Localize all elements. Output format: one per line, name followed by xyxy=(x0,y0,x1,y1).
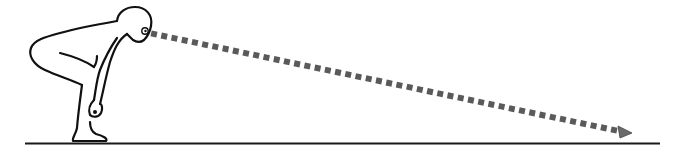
gaze-dot xyxy=(212,43,219,50)
gaze-dot xyxy=(283,58,290,65)
gaze-dot xyxy=(345,71,352,78)
gaze-dot xyxy=(232,48,239,55)
gaze-dot xyxy=(447,92,454,99)
gaze-dot xyxy=(222,45,229,52)
gaze-dot xyxy=(396,82,403,89)
gaze-dot xyxy=(263,54,270,61)
gaze-dot xyxy=(457,94,464,101)
back-outline xyxy=(30,21,117,85)
gaze-dotted-line xyxy=(150,30,617,133)
arrow-head-icon xyxy=(618,126,632,138)
gaze-dot xyxy=(590,122,597,129)
gaze-dot xyxy=(181,37,188,44)
gaze-dot xyxy=(498,103,505,110)
gaze-dot xyxy=(202,41,209,48)
gaze-dot xyxy=(518,107,525,114)
gaze-dot xyxy=(334,69,341,76)
inner-arm-outline xyxy=(94,38,117,100)
gaze-dot xyxy=(580,120,587,127)
gaze-dot xyxy=(171,35,178,42)
gaze-dot xyxy=(191,39,198,46)
illustration-svg xyxy=(0,0,674,156)
gaze-dot xyxy=(304,62,311,69)
gaze-dot xyxy=(375,77,382,84)
eye-icon xyxy=(142,28,148,34)
gaze-dot xyxy=(529,109,536,116)
gaze-dot xyxy=(253,52,260,59)
gaze-dot xyxy=(406,84,413,91)
gaze-dot xyxy=(294,60,301,67)
gaze-dot xyxy=(365,75,372,82)
gaze-dot xyxy=(610,126,617,133)
gaze-dot xyxy=(600,124,607,131)
gaze-dot xyxy=(161,33,168,40)
gaze-dot xyxy=(559,116,566,123)
thigh-line xyxy=(60,53,97,67)
gaze-dot xyxy=(467,97,474,104)
gaze-dot xyxy=(478,99,485,106)
gaze-dot xyxy=(324,67,331,74)
gaze-dot xyxy=(386,80,393,87)
gaze-dot xyxy=(355,73,362,80)
bent-over-figure xyxy=(30,7,151,141)
gaze-dot xyxy=(242,50,249,57)
gaze-dot xyxy=(150,30,157,37)
gaze-dot xyxy=(570,118,577,125)
gaze-dot xyxy=(508,105,515,112)
gaze-dot xyxy=(314,65,321,72)
gaze-dot xyxy=(416,86,423,93)
gaze-dot xyxy=(437,90,444,97)
gaze-dot xyxy=(539,112,546,119)
gaze-dot xyxy=(488,101,495,108)
illustration-canvas: person bent forward in squat/lifting pos… xyxy=(0,0,674,156)
gaze-dot xyxy=(273,56,280,63)
grip-dot xyxy=(93,110,97,114)
gaze-dot xyxy=(426,88,433,95)
gaze-dot xyxy=(549,114,556,121)
